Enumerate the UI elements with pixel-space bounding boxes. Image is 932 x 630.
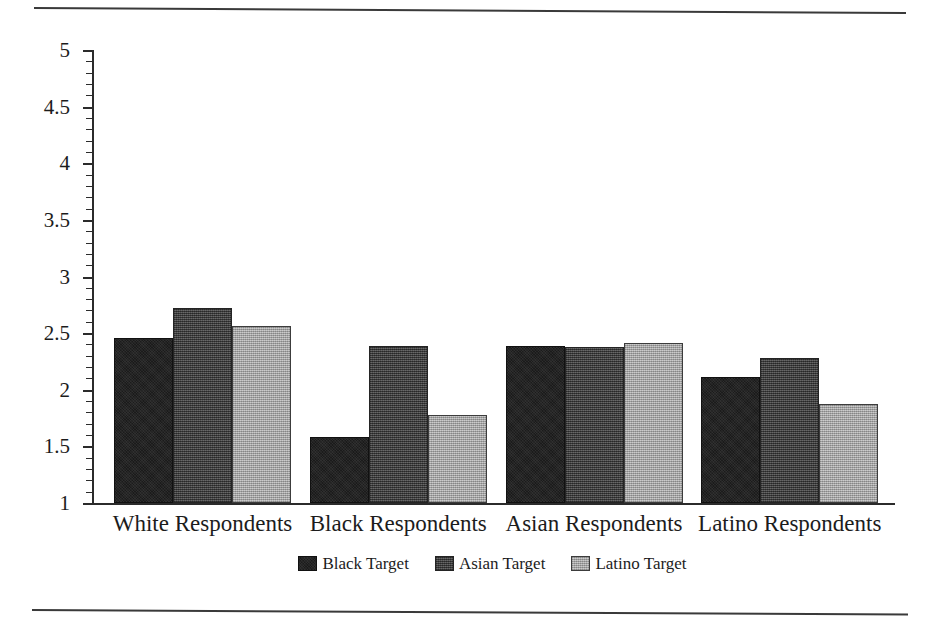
- y-axis-minor-tick: [86, 356, 92, 357]
- y-axis-minor-tick: [86, 231, 92, 232]
- figure-top-rule: [34, 7, 906, 14]
- y-axis-tick-label: 3.5: [44, 209, 70, 230]
- y-axis-tick-label: 3: [60, 266, 71, 287]
- bar-asian-target: [760, 358, 819, 503]
- y-axis-minor-tick: [86, 265, 92, 266]
- x-axis-line: [92, 503, 895, 505]
- x-axis-label-group-3: Asian Respondents: [506, 512, 683, 535]
- y-axis-minor-tick: [86, 186, 92, 187]
- bar-black-target: [506, 346, 565, 503]
- y-axis-tick-label: 1.5: [44, 436, 70, 457]
- y-axis-minor-tick: [86, 73, 92, 74]
- y-axis-tick-label: 4: [60, 153, 71, 174]
- y-axis-minor-tick: [86, 175, 92, 176]
- y-axis-major-tick: 2.5: [83, 333, 92, 335]
- bar-latino-target: [232, 326, 291, 503]
- legend-swatch-asian-target: [435, 556, 454, 571]
- bar-asian-target: [173, 308, 232, 503]
- bar-asian-target: [369, 346, 428, 503]
- y-axis-minor-tick: [86, 412, 92, 413]
- y-axis-minor-tick: [86, 243, 92, 244]
- bar-latino-target: [428, 415, 487, 503]
- y-axis-minor-tick: [86, 61, 92, 62]
- y-axis-minor-tick: [86, 458, 92, 459]
- y-axis-minor-tick: [86, 254, 92, 255]
- y-axis-minor-tick: [86, 129, 92, 130]
- y-axis-minor-tick: [86, 299, 92, 300]
- x-axis-label-group-2: Black Respondents: [310, 512, 487, 535]
- legend-label-latino-target: Latino Target: [595, 555, 686, 572]
- bar-asian-target: [565, 347, 624, 503]
- legend-entry-black-target: Black Target: [298, 555, 408, 572]
- y-axis-line: [92, 50, 94, 505]
- y-axis-minor-tick: [86, 378, 92, 379]
- y-axis-minor-tick: [86, 310, 92, 311]
- y-axis-tick-label: 1: [60, 493, 71, 514]
- y-axis-tick-label: 2.5: [44, 323, 70, 344]
- chart-legend: Black TargetAsian TargetLatino Target: [92, 555, 893, 572]
- figure-container: 11.522.533.544.55 White RespondentsBlack…: [0, 0, 932, 630]
- figure-bottom-rule: [32, 609, 908, 616]
- y-axis-major-tick: 3: [83, 277, 92, 279]
- y-axis-tick-label: 2: [60, 379, 71, 400]
- x-axis-label-group-4: Latino Respondents: [698, 512, 881, 535]
- y-axis-major-tick: 5: [83, 50, 92, 52]
- legend-swatch-black-target: [298, 556, 317, 571]
- legend-entry-latino-target: Latino Target: [571, 555, 686, 572]
- y-axis-tick-label: 5: [60, 40, 71, 61]
- y-axis-minor-tick: [86, 322, 92, 323]
- legend-label-black-target: Black Target: [322, 555, 408, 572]
- y-axis-major-tick: 4.5: [83, 107, 92, 109]
- legend-entry-asian-target: Asian Target: [435, 555, 545, 572]
- y-axis-minor-tick: [86, 209, 92, 210]
- y-axis-minor-tick: [86, 367, 92, 368]
- y-axis-major-tick: 4: [83, 163, 92, 165]
- bar-latino-target: [624, 343, 683, 503]
- y-axis-minor-tick: [86, 424, 92, 425]
- bar-latino-target: [819, 404, 878, 503]
- y-axis-major-tick: 3.5: [83, 220, 92, 222]
- y-axis-minor-tick: [86, 141, 92, 142]
- legend-label-asian-target: Asian Target: [459, 555, 545, 572]
- bar-black-target: [701, 377, 760, 503]
- x-axis-label-group-1: White Respondents: [113, 512, 293, 535]
- y-axis-minor-tick: [86, 84, 92, 85]
- y-axis-minor-tick: [86, 152, 92, 153]
- y-axis-minor-tick: [86, 197, 92, 198]
- y-axis-minor-tick: [86, 95, 92, 96]
- y-axis-major-tick: 1: [83, 503, 92, 505]
- y-axis-major-tick: 1.5: [83, 446, 92, 448]
- bar-black-target: [310, 437, 369, 503]
- y-axis-minor-tick: [86, 435, 92, 436]
- y-axis-minor-tick: [86, 288, 92, 289]
- y-axis-tick-label: 4.5: [44, 96, 70, 117]
- y-axis-minor-tick: [86, 118, 92, 119]
- y-axis-major-tick: 2: [83, 390, 92, 392]
- legend-swatch-latino-target: [571, 556, 590, 571]
- plot-area: 11.522.533.544.55 White RespondentsBlack…: [92, 50, 893, 503]
- bar-black-target: [114, 338, 173, 503]
- y-axis-minor-tick: [86, 344, 92, 345]
- y-axis-minor-tick: [86, 480, 92, 481]
- y-axis-minor-tick: [86, 492, 92, 493]
- y-axis-minor-tick: [86, 469, 92, 470]
- y-axis-minor-tick: [86, 401, 92, 402]
